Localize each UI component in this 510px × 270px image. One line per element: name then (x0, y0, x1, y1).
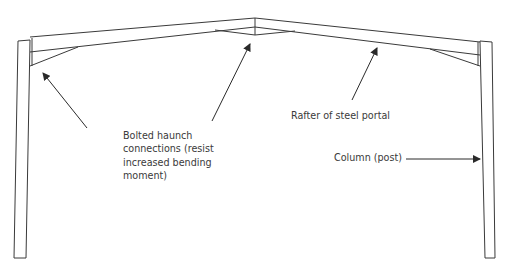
haunch-label-line-4: moment) (123, 169, 214, 182)
haunch-label-line-1: Bolted haunch (123, 129, 214, 142)
rafter-label: Rafter of steel portal (291, 109, 390, 122)
right-rafter (255, 18, 480, 66)
left-column (14, 40, 30, 258)
portal-frame-diagram (0, 0, 510, 270)
haunch-label-line-3: increased bending (123, 156, 214, 169)
haunch-arrow-apex (212, 44, 250, 121)
left-eave-haunch (30, 47, 78, 66)
haunch-label-line-2: connections (resist (123, 142, 214, 155)
right-column (480, 41, 495, 258)
haunch-arrow-left (43, 73, 87, 128)
haunch-label: Bolted haunch connections (resist increa… (123, 129, 214, 182)
column-label: Column (post) (334, 151, 402, 164)
left-rafter (30, 18, 255, 66)
rafter-arrow (352, 48, 377, 100)
